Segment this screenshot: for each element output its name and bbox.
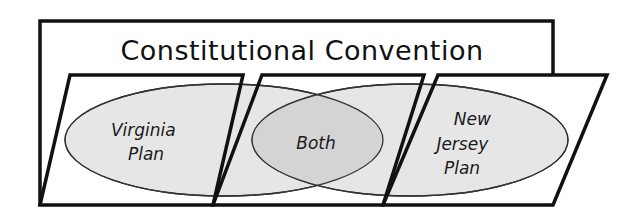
venn-diagram: Constitutional Convention Virginia Plan …: [0, 0, 635, 219]
label-both: Both: [296, 133, 336, 153]
diagram-title: Constitutional Convention: [120, 35, 483, 66]
